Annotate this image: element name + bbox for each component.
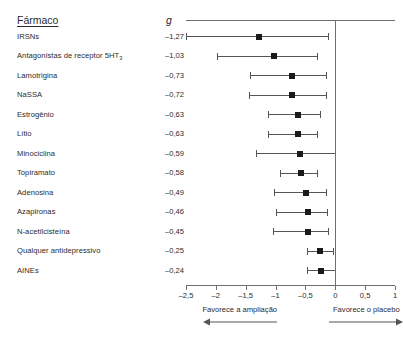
- ci-cap-upper: [317, 53, 318, 60]
- ci-cap-lower: [249, 92, 250, 99]
- ci-cap-lower: [273, 228, 274, 235]
- drug-label: Adenosina: [17, 188, 53, 197]
- confidence-interval-line: [273, 231, 329, 232]
- ci-cap-upper: [326, 92, 327, 99]
- confidence-interval-line: [276, 212, 327, 213]
- drug-label: Antagonistas de receptor 5HT3: [17, 51, 122, 61]
- x-axis-line: [186, 285, 395, 286]
- confidence-interval-line: [249, 95, 325, 96]
- x-axis-tick-label: –1,5: [238, 291, 253, 300]
- effect-size-value: –0,24: [150, 266, 184, 275]
- x-axis-tick-label: –1: [271, 291, 279, 300]
- x-axis-tick: [216, 286, 217, 290]
- x-axis-tick-label: –0,5: [298, 291, 313, 300]
- point-estimate-marker: [303, 190, 309, 196]
- effect-size-value: –0,49: [150, 188, 184, 197]
- ci-cap-lower: [256, 150, 257, 157]
- column-header-drug: Fármaco: [17, 14, 58, 26]
- ci-cap-upper: [317, 170, 318, 177]
- x-axis-tick: [276, 286, 277, 290]
- point-estimate-marker: [305, 229, 311, 235]
- point-estimate-marker: [289, 92, 295, 98]
- ci-cap-lower: [217, 53, 218, 60]
- favors-augmentation-arrow-icon: [203, 317, 277, 327]
- ci-cap-upper: [327, 209, 328, 216]
- ci-cap-lower: [268, 131, 269, 138]
- x-axis-tick-label: –2: [212, 291, 220, 300]
- x-axis-tick-label: 0: [333, 291, 337, 300]
- column-header-effect-size: g: [166, 14, 172, 26]
- drug-label: Lamotrigina: [17, 71, 57, 80]
- point-estimate-marker: [298, 170, 304, 176]
- effect-size-value: –0,45: [150, 227, 184, 236]
- effect-size-value: –0,59: [150, 149, 184, 158]
- drug-label: Topiramato: [17, 168, 55, 177]
- ci-cap-lower: [307, 267, 308, 274]
- x-axis-tick: [395, 286, 396, 290]
- point-estimate-marker: [295, 112, 301, 118]
- effect-size-value: –0,73: [150, 71, 184, 80]
- effect-size-value: –0,72: [150, 90, 184, 99]
- effect-size-value: –0,25: [150, 246, 184, 255]
- drug-label: AINEs: [17, 266, 39, 275]
- point-estimate-marker: [318, 268, 324, 274]
- point-estimate-marker: [289, 73, 295, 79]
- point-estimate-marker: [297, 151, 303, 157]
- effect-size-value: –1,03: [150, 51, 184, 60]
- ci-cap-upper: [320, 111, 321, 118]
- favors-augmentation-label: Favorece a ampliação: [202, 305, 277, 314]
- point-estimate-marker: [295, 131, 301, 137]
- favors-placebo-arrow-icon: [329, 317, 403, 327]
- plot-area: –2,5–2–1,5–1–0,500,51: [186, 20, 398, 295]
- x-axis-tick: [186, 286, 187, 290]
- ci-cap-lower: [307, 248, 308, 255]
- x-axis-tick: [335, 286, 336, 290]
- ci-cap-upper: [326, 189, 327, 196]
- confidence-interval-line: [256, 153, 334, 154]
- drug-label: NaSSA: [17, 90, 42, 99]
- point-estimate-marker: [317, 248, 323, 254]
- x-axis-tick-label: 0,5: [360, 291, 371, 300]
- drug-label: Qualquer antidepressivo: [17, 246, 100, 255]
- ci-cap-lower: [250, 72, 251, 79]
- effect-size-value: –0,46: [150, 207, 184, 216]
- x-axis-tick-label: 1: [393, 291, 397, 300]
- ci-cap-lower: [268, 111, 269, 118]
- ci-cap-upper: [328, 228, 329, 235]
- effect-size-value: –1,27: [150, 32, 184, 41]
- point-estimate-marker: [256, 34, 262, 40]
- x-axis-tick: [246, 286, 247, 290]
- drug-label: N-acetilcisteína: [17, 227, 70, 236]
- ci-cap-lower: [186, 33, 187, 40]
- x-axis-tick-label: –2,5: [179, 291, 194, 300]
- effect-size-value: –0,63: [150, 129, 184, 138]
- ci-cap-lower: [276, 209, 277, 216]
- favors-placebo-label: Favorece o placebo: [333, 305, 400, 314]
- x-axis-tick: [365, 286, 366, 290]
- ci-cap-upper: [317, 131, 318, 138]
- drug-label: Minociclina: [17, 149, 55, 158]
- plot-top-rule: [186, 20, 395, 21]
- drug-label: Azapironas: [17, 207, 56, 216]
- ci-cap-upper: [328, 33, 329, 40]
- confidence-interval-line: [268, 134, 317, 135]
- effect-size-value: –0,63: [150, 110, 184, 119]
- ci-cap-lower: [274, 189, 275, 196]
- confidence-interval-line: [217, 56, 317, 57]
- ci-cap-lower: [280, 170, 281, 177]
- null-effect-line: [335, 21, 336, 285]
- point-estimate-marker: [271, 53, 277, 59]
- ci-cap-upper: [326, 72, 327, 79]
- drug-label: Estrogênio: [17, 110, 54, 119]
- point-estimate-marker: [305, 209, 311, 215]
- drug-label: Lítio: [17, 129, 32, 138]
- drug-label: IRSNs: [17, 32, 39, 41]
- x-axis-tick: [305, 286, 306, 290]
- effect-size-value: –0,58: [150, 168, 184, 177]
- confidence-interval-line: [274, 192, 326, 193]
